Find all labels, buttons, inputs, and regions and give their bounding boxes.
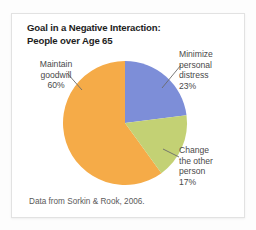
source-citation: Data from Sorkin & Rook, 2006. — [29, 196, 145, 207]
pie-slice-minimize-personal-distress[interactable] — [125, 61, 187, 123]
pie-label-minimize-personal-distress: Minimize personal distress 23% — [179, 49, 245, 91]
pie-chart-svg — [12, 14, 246, 219]
pie-label-maintain-goodwill: Maintain goodwill 60% — [25, 59, 87, 91]
chart-figure: Goal in a Negative Interaction: People o… — [0, 0, 256, 230]
pie-chart — [12, 14, 246, 219]
pie-label-change-other-person: Change the other person 17% — [179, 145, 245, 187]
chart-card: Goal in a Negative Interaction: People o… — [11, 13, 245, 218]
